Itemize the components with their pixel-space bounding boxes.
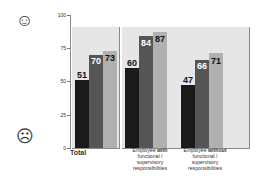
label-71: 71 [208, 56, 224, 66]
y-tick-100: 100 [52, 12, 66, 18]
bar-total-3 [103, 51, 117, 148]
text: responsibilities [133, 165, 167, 171]
tickmark [67, 81, 70, 82]
label-51: 51 [74, 70, 90, 80]
label-87: 87 [152, 34, 168, 44]
tickmark [67, 115, 70, 116]
label-73: 73 [102, 53, 118, 63]
label-60: 60 [124, 58, 140, 68]
bar-total-2 [89, 55, 103, 148]
y-tick-0: 0 [52, 145, 66, 151]
y-tick-75: 75 [52, 45, 66, 51]
bar-with-2 [139, 36, 153, 148]
category-with: Employee with functional / supervisory r… [125, 147, 175, 171]
tickmark [67, 15, 70, 16]
frowning-face-icon: ☹ [16, 128, 34, 145]
smiley-face-icon: ☺ [16, 12, 33, 29]
bar-with-1 [125, 68, 139, 148]
tickmark [67, 48, 70, 49]
y-tick-50: 50 [52, 78, 66, 84]
y-tick-25: 25 [52, 112, 66, 118]
y-axis [70, 15, 71, 149]
label-47: 47 [180, 75, 196, 85]
bar-total-1 [75, 80, 89, 148]
bar-without-1 [181, 85, 195, 148]
bar-without-2 [195, 60, 209, 148]
category-total: Total [70, 150, 94, 156]
bar-with-3 [153, 32, 167, 148]
category-without: Employee without functional / supervisor… [178, 147, 232, 171]
text: responsibilities [188, 165, 222, 171]
bar-without-3 [209, 53, 223, 148]
